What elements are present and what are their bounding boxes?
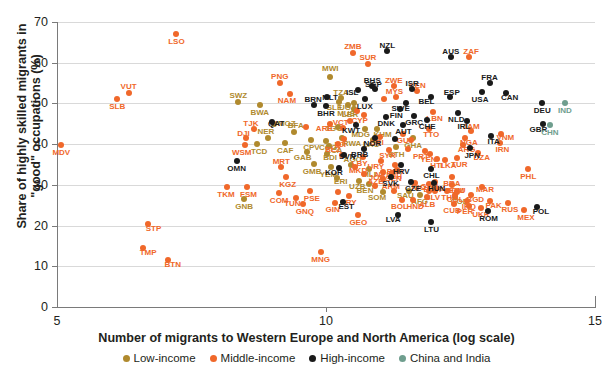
- data-point-label: BRB: [351, 151, 368, 159]
- legend-item[interactable]: Middle-income: [210, 352, 296, 364]
- data-point-label: ISL: [346, 89, 358, 97]
- data-point-label: HND: [406, 203, 423, 211]
- data-point-label: ROM: [479, 215, 498, 223]
- gridline: [57, 22, 595, 23]
- data-point: [361, 171, 367, 177]
- y-tick-label: 20: [24, 220, 48, 233]
- data-point-label: BEL: [418, 98, 434, 106]
- data-point-label: BHR: [317, 110, 334, 118]
- data-point-label: ZWE: [385, 77, 403, 85]
- y-tick-mark: [52, 22, 57, 23]
- y-axis-line: [57, 22, 58, 308]
- legend-item[interactable]: China and India: [399, 352, 491, 364]
- data-point-label: RUS: [501, 206, 518, 214]
- data-point-label: QAT: [268, 120, 284, 128]
- data-point-label: LVA: [386, 216, 401, 224]
- data-point-label: PHL: [520, 173, 536, 181]
- data-point: [347, 118, 353, 124]
- data-point-label: BWA: [250, 109, 269, 117]
- y-tick-label: 50: [24, 97, 48, 110]
- data-point-label: GMB: [303, 168, 322, 176]
- data-point-label: MNG: [311, 256, 330, 264]
- data-point-label: BTN: [165, 261, 181, 269]
- data-point-label: TUR: [451, 161, 467, 169]
- y-tick-mark: [52, 103, 57, 104]
- legend-item[interactable]: Low-income: [123, 352, 196, 364]
- data-point-label: ZMB: [344, 43, 361, 51]
- data-point-label: PRT: [413, 153, 429, 161]
- data-point-label: AUS: [442, 48, 459, 56]
- gridline: [57, 226, 595, 227]
- data-point-label: DNK: [378, 120, 395, 128]
- data-point-label: POL: [533, 208, 549, 216]
- data-point-label: CPV: [303, 144, 319, 152]
- data-point-label: DJI: [237, 130, 249, 138]
- data-point-label: GEO: [349, 219, 367, 227]
- data-point-label: GAB: [294, 154, 312, 162]
- data-point-label: VUT: [121, 83, 137, 91]
- data-point-label: AUT: [395, 128, 411, 136]
- x-tick-label: 5: [54, 314, 61, 328]
- y-tick-mark: [52, 266, 57, 267]
- data-point-label: MYS: [386, 88, 403, 96]
- data-point-label: DEU: [534, 107, 551, 115]
- data-point-label: KWT: [342, 127, 360, 135]
- y-tick-label: 40: [24, 138, 48, 151]
- data-point-label: PNG: [271, 73, 288, 81]
- data-point-label: CHL: [423, 172, 439, 180]
- data-point-label: PSE: [304, 195, 320, 203]
- data-point-label: FRA: [481, 74, 497, 82]
- data-point: [335, 189, 341, 195]
- data-point: [327, 74, 333, 80]
- data-point-label: NER: [257, 128, 274, 136]
- data-point-label: HUN: [428, 185, 445, 193]
- y-tick-mark: [52, 226, 57, 227]
- data-point-label: CUB: [443, 207, 460, 215]
- data-point-label: ITA: [487, 138, 499, 146]
- data-point-label: TJK: [243, 120, 258, 128]
- legend-item[interactable]: High-income: [309, 352, 385, 364]
- data-point-label: BRN: [304, 96, 321, 104]
- data-point-label: JPN: [464, 152, 480, 160]
- y-tick-label: 10: [24, 260, 48, 273]
- data-point-label: TCD: [251, 148, 267, 156]
- legend-swatch-icon: [399, 355, 406, 362]
- x-tick-mark: [326, 307, 327, 312]
- data-point-label: CAN: [501, 94, 518, 102]
- data-point-label: IRL: [458, 123, 471, 131]
- legend-label: China and India: [410, 352, 491, 364]
- data-point-label: ESP: [444, 89, 460, 97]
- data-point-label: CHE: [419, 123, 436, 131]
- x-tick-mark: [57, 296, 58, 308]
- data-point-label: TMP: [140, 249, 157, 257]
- data-point-label: SOM: [368, 194, 386, 202]
- x-axis-label: Number of migrants to Western Europe and…: [0, 331, 613, 345]
- scatter-chart: Share of highly skilled migrants in "goo…: [0, 0, 613, 380]
- y-tick-label: 0: [24, 301, 48, 314]
- data-point-label: NZL: [380, 42, 396, 50]
- data-point-label: COL: [447, 196, 464, 204]
- data-point-label: NOR: [364, 140, 382, 148]
- data-point-label: ARE: [316, 125, 333, 133]
- x-tick-mark: [595, 296, 596, 308]
- data-point-label: KOR: [325, 169, 343, 177]
- gridline: [57, 266, 595, 267]
- data-point-label: TTO: [423, 131, 439, 139]
- data-point-label: FSM: [240, 191, 257, 199]
- data-point-label: NAM: [278, 97, 296, 105]
- legend-label: High-income: [320, 352, 385, 364]
- data-point-label: LSO: [168, 38, 184, 46]
- y-tick-mark: [52, 185, 57, 186]
- data-point-label: MWI: [322, 65, 338, 73]
- data-point-label: LTU: [424, 226, 439, 234]
- y-tick-mark: [52, 144, 57, 145]
- data-point-label: LUX: [357, 103, 373, 111]
- data-point: [392, 136, 398, 142]
- y-tick-label: 70: [24, 16, 48, 29]
- data-point-label: GNQ: [296, 208, 314, 216]
- data-point-label: SYR: [379, 152, 395, 160]
- data-point-label: STP: [146, 225, 162, 233]
- legend-swatch-icon: [309, 355, 316, 362]
- data-point-label: LBY: [352, 160, 368, 168]
- y-axis-label: Share of highly skilled migrants in "goo…: [15, 1, 43, 251]
